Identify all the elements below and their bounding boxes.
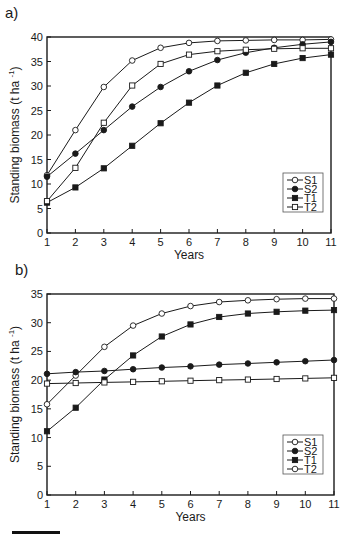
x-tick-label: 5 xyxy=(159,498,165,510)
legend-marker-icon xyxy=(292,466,298,472)
data-point-marker xyxy=(44,381,49,386)
data-point-marker xyxy=(303,296,309,302)
y-tick-label: 30 xyxy=(31,317,43,329)
y-axis-title: Standing biomass (t ha -1) xyxy=(7,326,22,463)
data-point-marker xyxy=(73,405,78,410)
scale-bar xyxy=(12,531,60,534)
y-tick-label: 35 xyxy=(31,288,43,300)
legend-label-t2: T2 xyxy=(304,463,317,475)
x-axis: 1234567891011 xyxy=(44,491,340,510)
y-tick-label: 10 xyxy=(31,432,43,444)
series-s1 xyxy=(44,296,337,407)
data-point-marker xyxy=(303,376,308,381)
data-point-marker xyxy=(274,309,279,314)
data-point-marker xyxy=(44,371,50,377)
data-point-marker xyxy=(159,365,165,371)
data-point-marker xyxy=(274,296,280,302)
data-point-marker xyxy=(245,298,251,304)
data-point-marker xyxy=(44,401,50,407)
data-point-marker xyxy=(303,358,309,364)
data-point-marker xyxy=(159,311,165,317)
data-point-marker xyxy=(73,369,79,375)
legend-marker-icon xyxy=(292,448,298,454)
series-t2 xyxy=(44,375,336,386)
series-s2 xyxy=(44,357,337,376)
data-point-marker xyxy=(44,429,49,434)
data-point-marker xyxy=(102,380,107,385)
y-axis: 05101520253035 xyxy=(31,288,51,501)
x-tick-label: 10 xyxy=(299,498,311,510)
data-point-marker xyxy=(245,377,250,382)
data-point-marker xyxy=(331,357,337,363)
y-tick-label: 15 xyxy=(31,403,43,415)
y-tick-label: 20 xyxy=(31,374,43,386)
legend-marker-icon xyxy=(292,457,297,462)
data-point-marker xyxy=(130,323,136,329)
data-point-marker xyxy=(303,308,308,313)
data-point-marker xyxy=(331,375,336,380)
x-tick-label: 3 xyxy=(101,498,107,510)
data-point-marker xyxy=(188,303,194,309)
data-point-marker xyxy=(102,344,108,350)
legend: S1S2T1T2 xyxy=(283,435,323,475)
y-tick-label: 5 xyxy=(37,460,43,472)
data-point-marker xyxy=(188,378,193,383)
data-point-marker xyxy=(130,366,136,372)
data-point-marker xyxy=(159,379,164,384)
x-tick-label: 2 xyxy=(73,498,79,510)
y-tick-label: 0 xyxy=(37,489,43,501)
data-point-marker xyxy=(188,364,194,370)
data-point-marker xyxy=(245,311,250,316)
x-tick-label: 11 xyxy=(328,498,339,510)
data-point-marker xyxy=(331,296,337,302)
data-point-marker xyxy=(159,334,164,339)
data-point-marker xyxy=(216,299,222,305)
data-point-marker xyxy=(102,368,108,374)
data-point-marker xyxy=(216,362,222,368)
series-t1 xyxy=(44,307,336,433)
x-tick-label: 4 xyxy=(130,498,136,510)
x-tick-label: 1 xyxy=(44,498,50,510)
data-point-marker xyxy=(245,361,251,367)
data-point-marker xyxy=(217,314,222,319)
x-tick-label: 7 xyxy=(216,498,222,510)
data-point-marker xyxy=(331,307,336,312)
data-point-marker xyxy=(188,322,193,327)
x-tick-label: 6 xyxy=(187,498,193,510)
x-tick-label: 8 xyxy=(245,498,251,510)
data-point-marker xyxy=(274,360,280,366)
data-point-marker xyxy=(274,376,279,381)
data-point-marker xyxy=(217,378,222,383)
x-axis-title: Years xyxy=(175,510,205,524)
y-tick-label: 25 xyxy=(31,345,43,357)
legend-marker-icon xyxy=(292,439,298,445)
data-point-marker xyxy=(131,353,136,358)
chart-b: 051015202530351234567891011YearsStanding… xyxy=(0,0,347,537)
data-point-marker xyxy=(73,380,78,385)
data-point-marker xyxy=(131,379,136,384)
x-tick-label: 9 xyxy=(274,498,280,510)
